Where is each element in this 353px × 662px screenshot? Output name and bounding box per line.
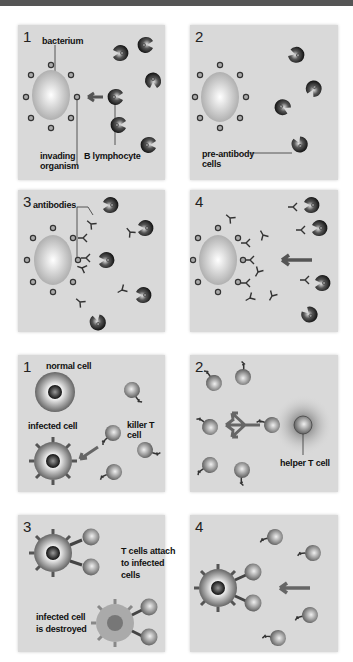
label-normal-cell: normal cell <box>46 361 91 371</box>
antibody-panel-1: 1 bacterium invading organism B lymphocy… <box>18 25 165 180</box>
top-border <box>0 0 353 6</box>
label-antibodies: antibodies <box>33 200 76 210</box>
antibody-panel-3: 3 antibodies <box>18 190 165 332</box>
label-infected-cell-destroyed: infected cell is destroyed <box>36 611 87 635</box>
tcell-panel-3: 3 T cells attach to infected cells infec… <box>18 515 165 652</box>
label-helper-t-cell: helper T cell <box>280 458 330 468</box>
tcell-panel-4: 4 <box>190 515 338 652</box>
antibody-panel-2: 2 pre-antibody cells <box>190 25 338 180</box>
panel-illustration <box>190 190 338 332</box>
panel-illustration <box>190 515 338 652</box>
panel-illustration <box>190 355 338 492</box>
tcell-panel-1: 1 normal cell infected cell killer T cel… <box>18 355 165 492</box>
tcell-panel-2: 2 helper T cell <box>190 355 338 492</box>
antibody-panel-4: 4 <box>190 190 338 332</box>
label-invading-organism: invading organism <box>40 151 79 171</box>
panel-illustration <box>18 190 165 332</box>
label-b-lymphocyte: B lymphocyte <box>84 151 141 161</box>
label-pre-antibody-cells: pre-antibody cells <box>202 149 254 169</box>
label-killer-t-cell: killer T cell <box>127 420 165 440</box>
label-bacterium: bacterium <box>42 36 83 46</box>
label-t-cells-attach: T cells attach to infected cells <box>121 545 175 581</box>
label-infected-cell: infected cell <box>28 421 77 431</box>
